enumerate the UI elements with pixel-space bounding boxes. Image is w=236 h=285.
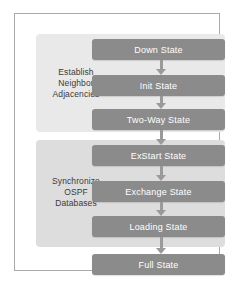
state-box-two-way-state[interactable]: Two-Way State [92,109,225,130]
arrow-shaft [160,96,163,103]
state-box-label: Two-Way State [127,115,190,125]
arrow-down-icon [156,202,167,216]
arrow-down-icon [156,60,167,75]
state-box-init-state[interactable]: Init State [92,75,225,96]
arrow-shaft [160,166,163,175]
state-box-down-state[interactable]: Down State [92,39,225,60]
arrow-shaft [160,237,163,248]
arrow-down-icon [156,96,167,109]
arrow-down-icon [156,166,167,181]
diagram-frame: Establish Neighbor Adjacencies Synchroni… [14,13,220,271]
arrow-shaft [160,202,163,210]
state-box-exchange-state[interactable]: Exchange State [92,181,225,202]
arrow-down-icon [156,237,167,254]
state-box-label: Loading State [129,222,187,232]
state-box-exstart-state[interactable]: ExStart State [92,145,225,166]
arrow-shaft [160,130,163,139]
state-box-label: Init State [140,81,178,91]
arrow-down-icon [156,130,167,145]
state-box-label: Exchange State [125,187,191,197]
state-box-label: Down State [134,45,183,55]
state-box-loading-state[interactable]: Loading State [92,216,225,237]
state-box-label: Full State [138,260,178,270]
state-box-label: ExStart State [131,151,187,161]
arrow-shaft [160,60,163,69]
ospf-state-diagram: Establish Neighbor Adjacencies Synchroni… [0,0,236,285]
state-box-full-state[interactable]: Full State [92,254,225,275]
